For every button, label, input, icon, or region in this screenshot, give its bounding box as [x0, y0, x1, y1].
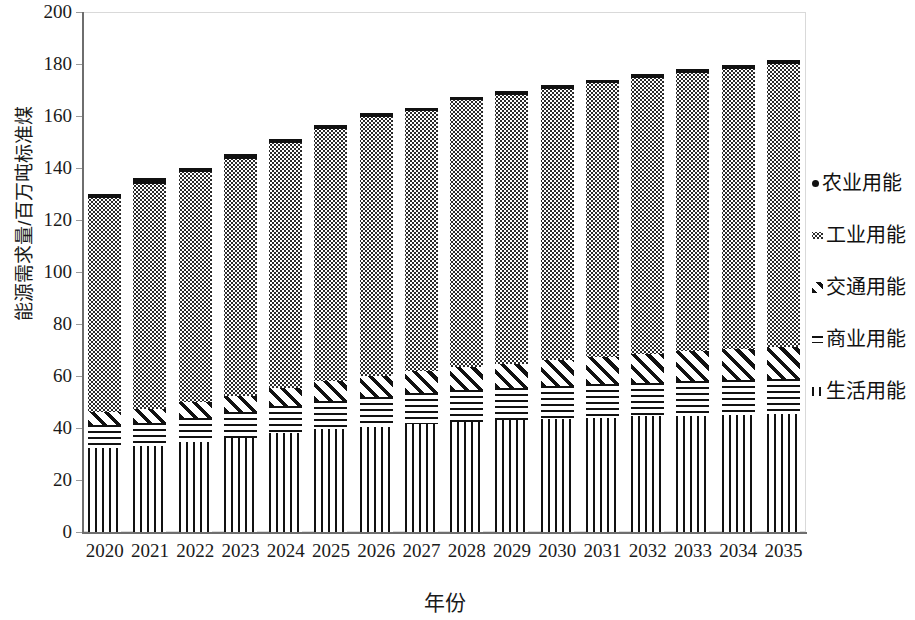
- bar-segment-工业用能[interactable]: [179, 172, 212, 402]
- bar-segment-农业用能[interactable]: [314, 125, 347, 129]
- bar-segment-商业用能[interactable]: [767, 379, 800, 414]
- bar-segment-工业用能[interactable]: [767, 64, 800, 347]
- bar-segment-工业用能[interactable]: [269, 143, 302, 387]
- bar-segment-农业用能[interactable]: [495, 91, 528, 94]
- bar-segment-商业用能[interactable]: [495, 388, 528, 420]
- bar-segment-商业用能[interactable]: [722, 380, 755, 415]
- bar-segment-生活用能[interactable]: [269, 433, 302, 532]
- bar-segment-交通用能[interactable]: [586, 357, 619, 384]
- bar-segment-生活用能[interactable]: [586, 418, 619, 532]
- bar-segment-交通用能[interactable]: [767, 347, 800, 379]
- bar-segment-农业用能[interactable]: [586, 80, 619, 83]
- legend-item[interactable]: 生活用能: [812, 378, 906, 404]
- bar-segment-农业用能[interactable]: [676, 69, 709, 73]
- bar-segment-工业用能[interactable]: [676, 73, 709, 351]
- bar-segment-商业用能[interactable]: [631, 383, 664, 417]
- bar-segment-交通用能[interactable]: [360, 376, 393, 397]
- bar-segment-农业用能[interactable]: [269, 139, 302, 143]
- bar-segment-农业用能[interactable]: [405, 108, 438, 111]
- bar-segment-工业用能[interactable]: [495, 95, 528, 364]
- bar-segment-生活用能[interactable]: [360, 427, 393, 532]
- bar-column[interactable]: [631, 74, 664, 532]
- bar-segment-生活用能[interactable]: [450, 422, 483, 533]
- bar-segment-生活用能[interactable]: [88, 448, 121, 533]
- bar-segment-工业用能[interactable]: [405, 111, 438, 371]
- bar-segment-工业用能[interactable]: [541, 89, 574, 361]
- bar-segment-商业用能[interactable]: [269, 406, 302, 433]
- bar-column[interactable]: [722, 65, 755, 532]
- bar-segment-商业用能[interactable]: [133, 423, 166, 446]
- bar-segment-交通用能[interactable]: [133, 409, 166, 423]
- bar-segment-工业用能[interactable]: [314, 129, 347, 381]
- bar-segment-农业用能[interactable]: [767, 60, 800, 64]
- bar-segment-工业用能[interactable]: [88, 198, 121, 413]
- bar-column[interactable]: [586, 80, 619, 532]
- bar-segment-交通用能[interactable]: [224, 396, 257, 413]
- bar-segment-农业用能[interactable]: [179, 168, 212, 172]
- bar-segment-交通用能[interactable]: [450, 367, 483, 390]
- bar-segment-农业用能[interactable]: [541, 85, 574, 89]
- bar-segment-工业用能[interactable]: [586, 83, 619, 357]
- bar-segment-交通用能[interactable]: [88, 412, 121, 425]
- bar-segment-农业用能[interactable]: [88, 194, 121, 198]
- bar-segment-商业用能[interactable]: [88, 425, 121, 447]
- bar-segment-交通用能[interactable]: [541, 360, 574, 386]
- bar-segment-交通用能[interactable]: [405, 371, 438, 393]
- bar-segment-工业用能[interactable]: [224, 159, 257, 396]
- bar-segment-生活用能[interactable]: [495, 420, 528, 532]
- bar-segment-商业用能[interactable]: [586, 384, 619, 417]
- bar-segment-工业用能[interactable]: [133, 184, 166, 409]
- bar-segment-交通用能[interactable]: [722, 349, 755, 380]
- bar-segment-交通用能[interactable]: [179, 402, 212, 418]
- bar-segment-农业用能[interactable]: [722, 65, 755, 69]
- bar-column[interactable]: [450, 97, 483, 533]
- bar-column[interactable]: [224, 154, 257, 532]
- bar-segment-生活用能[interactable]: [224, 438, 257, 532]
- bar-column[interactable]: [269, 139, 302, 532]
- bar-segment-农业用能[interactable]: [450, 97, 483, 101]
- bar-segment-生活用能[interactable]: [676, 416, 709, 532]
- bar-segment-生活用能[interactable]: [405, 424, 438, 532]
- bar-segment-生活用能[interactable]: [179, 442, 212, 532]
- bar-column[interactable]: [360, 113, 393, 532]
- bar-column[interactable]: [495, 91, 528, 532]
- legend-item[interactable]: 交通用能: [812, 274, 906, 300]
- bar-segment-商业用能[interactable]: [541, 386, 574, 419]
- bar-segment-生活用能[interactable]: [314, 429, 347, 532]
- bar-segment-工业用能[interactable]: [360, 117, 393, 376]
- bar-segment-农业用能[interactable]: [133, 178, 166, 183]
- bar-segment-农业用能[interactable]: [631, 74, 664, 78]
- bar-segment-工业用能[interactable]: [450, 100, 483, 367]
- bar-column[interactable]: [405, 108, 438, 532]
- legend-item[interactable]: 商业用能: [812, 326, 906, 352]
- bar-column[interactable]: [541, 85, 574, 532]
- bar-segment-农业用能[interactable]: [360, 113, 393, 117]
- bar-segment-生活用能[interactable]: [631, 416, 664, 532]
- bar-column[interactable]: [767, 60, 800, 532]
- bar-segment-生活用能[interactable]: [767, 414, 800, 532]
- bar-segment-工业用能[interactable]: [631, 78, 664, 354]
- bar-column[interactable]: [314, 125, 347, 532]
- bar-segment-交通用能[interactable]: [631, 354, 664, 383]
- bar-segment-商业用能[interactable]: [360, 397, 393, 427]
- bar-segment-生活用能[interactable]: [541, 419, 574, 532]
- bar-segment-商业用能[interactable]: [179, 418, 212, 443]
- bar-segment-生活用能[interactable]: [133, 446, 166, 532]
- legend-item[interactable]: 工业用能: [812, 222, 906, 248]
- bar-segment-交通用能[interactable]: [495, 364, 528, 389]
- bar-segment-交通用能[interactable]: [269, 388, 302, 406]
- bar-segment-农业用能[interactable]: [224, 154, 257, 159]
- bar-column[interactable]: [676, 69, 709, 532]
- bar-segment-工业用能[interactable]: [722, 69, 755, 349]
- legend-item[interactable]: 农业用能: [812, 170, 902, 196]
- bar-segment-商业用能[interactable]: [314, 401, 347, 430]
- bar-segment-商业用能[interactable]: [224, 412, 257, 438]
- bar-segment-生活用能[interactable]: [722, 415, 755, 532]
- bar-column[interactable]: [88, 194, 121, 532]
- bar-segment-商业用能[interactable]: [676, 381, 709, 415]
- bar-segment-商业用能[interactable]: [405, 393, 438, 424]
- bar-column[interactable]: [133, 178, 166, 532]
- bar-segment-交通用能[interactable]: [676, 351, 709, 381]
- bar-segment-商业用能[interactable]: [450, 390, 483, 421]
- bar-segment-交通用能[interactable]: [314, 381, 347, 401]
